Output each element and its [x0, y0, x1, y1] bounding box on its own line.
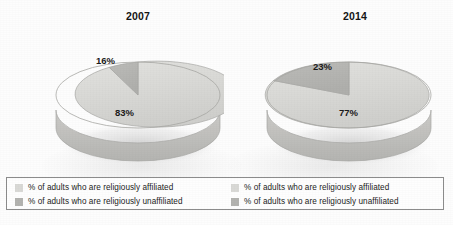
legend: % of adults who are religiously affiliat…	[6, 177, 444, 210]
pie-chart-2007-svg	[52, 28, 224, 170]
legend-label-unaffiliated: % of adults who are religiously unaffili…	[28, 197, 183, 206]
legend-label-affiliated: % of adults who are religiously affiliat…	[28, 183, 173, 192]
pie-chart-2007: 16% 83%	[52, 28, 224, 170]
chart-title-2014: 2014	[325, 10, 385, 22]
legend-item-affiliated: % of adults who are religiously affiliat…	[15, 181, 183, 194]
legend-label-affiliated: % of adults who are religiously affiliat…	[244, 183, 389, 192]
pie-chart-2014: 23% 77%	[263, 28, 435, 170]
legend-swatch-affiliated-icon	[231, 184, 239, 192]
legend-label-unaffiliated: % of adults who are religiously unaffili…	[244, 197, 399, 206]
legend-group-2007: % of adults who are religiously affiliat…	[15, 181, 183, 209]
legend-swatch-unaffiliated-icon	[231, 198, 239, 206]
pie-label-unaffiliated-2014: 23%	[313, 61, 332, 72]
chart-title-2007: 2007	[108, 10, 168, 22]
pie-label-affiliated-2014: 77%	[339, 107, 358, 118]
legend-group-2014: % of adults who are religiously affiliat…	[231, 181, 399, 209]
pie-slice-affiliated	[75, 61, 224, 127]
legend-swatch-affiliated-icon	[15, 184, 23, 192]
pie-chart-2014-svg	[263, 28, 435, 170]
pie-label-affiliated-2007: 83%	[115, 107, 134, 118]
legend-item-unaffiliated: % of adults who are religiously unaffili…	[15, 195, 183, 208]
legend-swatch-unaffiliated-icon	[15, 198, 23, 206]
pie-chart-figure: 2007	[0, 0, 453, 225]
legend-item-unaffiliated: % of adults who are religiously unaffili…	[231, 195, 399, 208]
legend-item-affiliated: % of adults who are religiously affiliat…	[231, 181, 399, 194]
pie-label-unaffiliated-2007: 16%	[96, 55, 115, 66]
